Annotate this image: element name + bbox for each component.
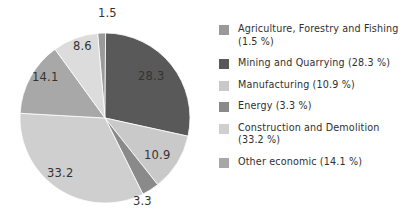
legend-item-label: Mining and Quarrying (28.3 %) [238, 57, 390, 70]
legend-swatch-icon [219, 102, 229, 112]
legend-item-label: Manufacturing (10.9 %) [238, 79, 355, 92]
legend-item-label: Energy (3.3 %) [238, 100, 312, 113]
legend-item-label: Construction and Demolition (33.2 %) [238, 122, 399, 147]
pie-label-agriculture: 1.5 [98, 8, 117, 20]
pie-chart-svg [0, 0, 205, 217]
pie-slice-group [20, 33, 190, 203]
chart-legend: Agriculture, Forestry and Fishing (1.5 %… [219, 23, 399, 177]
pie-label-manufacturing: 10.9 [144, 150, 170, 162]
pie-label-mining: 28.3 [138, 71, 164, 83]
legend-item[interactable]: Construction and Demolition (33.2 %) [219, 122, 399, 147]
legend-item[interactable]: Other economic (14.1 %) [219, 156, 399, 169]
legend-swatch-icon [219, 158, 229, 168]
chart-figure: 1.5 28.3 10.9 3.3 33.2 14.1 8.6 Agricult… [0, 0, 402, 217]
pie-label-other-economic: 14.1 [32, 72, 58, 84]
legend-swatch-icon [219, 59, 229, 69]
pie-label-energy: 3.3 [133, 196, 152, 208]
pie-label-construction: 33.2 [47, 168, 73, 180]
legend-item-label: Other economic (14.1 %) [238, 156, 362, 169]
legend-swatch-icon [219, 81, 229, 91]
legend-swatch-icon [219, 25, 229, 35]
pie-label-unlabelled: 8.6 [73, 41, 92, 53]
legend-swatch-icon [219, 124, 229, 134]
legend-item[interactable]: Energy (3.3 %) [219, 100, 399, 113]
legend-item[interactable]: Mining and Quarrying (28.3 %) [219, 57, 399, 70]
legend-item-label: Agriculture, Forestry and Fishing (1.5 %… [238, 23, 399, 48]
legend-item[interactable]: Manufacturing (10.9 %) [219, 79, 399, 92]
pie-chart: 1.5 28.3 10.9 3.3 33.2 14.1 8.6 [0, 0, 205, 217]
legend-item[interactable]: Agriculture, Forestry and Fishing (1.5 %… [219, 23, 399, 48]
